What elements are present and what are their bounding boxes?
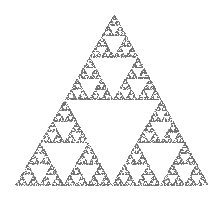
sierpinski-triangle-canvas: [0, 0, 220, 197]
